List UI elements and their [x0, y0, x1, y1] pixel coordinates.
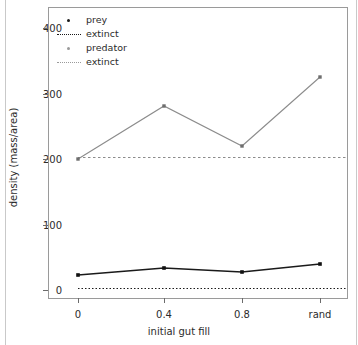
- data-point-prey-0: [76, 273, 80, 277]
- legend-item-predator: predator: [56, 41, 166, 55]
- chart-legend: prey extinct predator extinct: [56, 13, 166, 69]
- data-point-prey-0-8: [240, 270, 244, 274]
- legend-marker-dashed-line-icon: [56, 28, 82, 40]
- legend-label-predator-extinct: extinct: [82, 56, 119, 68]
- legend-item-prey: prey: [56, 13, 166, 27]
- legend-marker-dot-gray-icon: [56, 42, 82, 54]
- data-point-predator-0-4: [162, 104, 165, 107]
- y-axis-ticks: [43, 29, 48, 291]
- legend-item-predator-extinct: extinct: [56, 55, 166, 69]
- figure-panel: 400 300 200 100 0 0 0.4 0.8 rand initial…: [0, 0, 358, 345]
- data-point-prey-0-4: [162, 266, 166, 270]
- legend-label-predator: predator: [82, 42, 127, 54]
- series-prey-line: [78, 264, 320, 275]
- legend-label-prey: prey: [82, 14, 107, 26]
- series-predator-line: [78, 77, 320, 159]
- data-point-prey-rand: [318, 262, 322, 266]
- series-predator-points: [76, 75, 321, 160]
- legend-label-prey-extinct: extinct: [82, 28, 119, 40]
- data-point-predator-0: [76, 157, 79, 160]
- legend-marker-dot-icon: [56, 14, 82, 26]
- legend-item-prey-extinct: extinct: [56, 27, 166, 41]
- data-point-predator-rand: [318, 75, 321, 78]
- data-point-predator-0-8: [240, 144, 243, 147]
- legend-marker-dashed-line-gray-icon: [56, 56, 82, 68]
- plot-canvas: [0, 0, 358, 345]
